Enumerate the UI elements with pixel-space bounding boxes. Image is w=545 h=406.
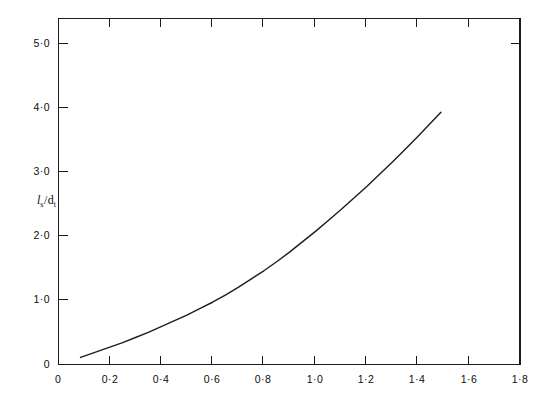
- figure-container: 5·0 4·0 3·0 2·0 1·0 0 ls/dt 0 0·2 0·4 0·…: [0, 0, 545, 406]
- xtick-label-1-0: 1·0: [307, 373, 323, 385]
- y-axis-ticks: [58, 44, 68, 300]
- xtick-label-0-2: 0·2: [102, 373, 118, 385]
- xtick-label-0-8: 0·8: [255, 373, 271, 385]
- xtick-label-0-4: 0·4: [153, 373, 169, 385]
- top-axis-ticks: [110, 19, 469, 27]
- ytick-label-1: 1·0: [34, 293, 50, 305]
- xtick-label-1-4: 1·4: [409, 373, 425, 385]
- plot-area: [0, 0, 545, 406]
- y-axis-label: ls/dt: [37, 193, 56, 208]
- ytick-label-0: 0: [44, 358, 50, 370]
- ytick-label-4: 4·0: [34, 101, 50, 113]
- ytick-label-5: 5·0: [34, 37, 50, 49]
- data-curve-ls-dt: [81, 112, 441, 357]
- ytick-label-3: 3·0: [34, 165, 50, 177]
- xtick-label-1-6: 1·6: [461, 373, 477, 385]
- xtick-label-0: 0: [55, 373, 61, 385]
- xtick-label-1-2: 1·2: [358, 373, 374, 385]
- y-axis-label-denominator-subscript: t: [54, 199, 56, 208]
- axis-frame: [58, 18, 521, 365]
- xtick-label-0-6: 0·6: [204, 373, 220, 385]
- ytick-label-2: 2·0: [34, 229, 50, 241]
- xtick-label-1-8: 1·8: [512, 373, 528, 385]
- y-axis-label-denominator: d: [48, 193, 54, 207]
- x-axis-ticks: [110, 356, 469, 364]
